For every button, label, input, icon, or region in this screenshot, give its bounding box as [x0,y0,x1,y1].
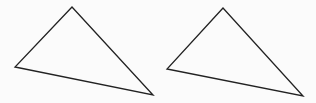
left-triangle [15,7,153,95]
figure-canvas [0,0,316,103]
right-triangle [167,8,303,96]
